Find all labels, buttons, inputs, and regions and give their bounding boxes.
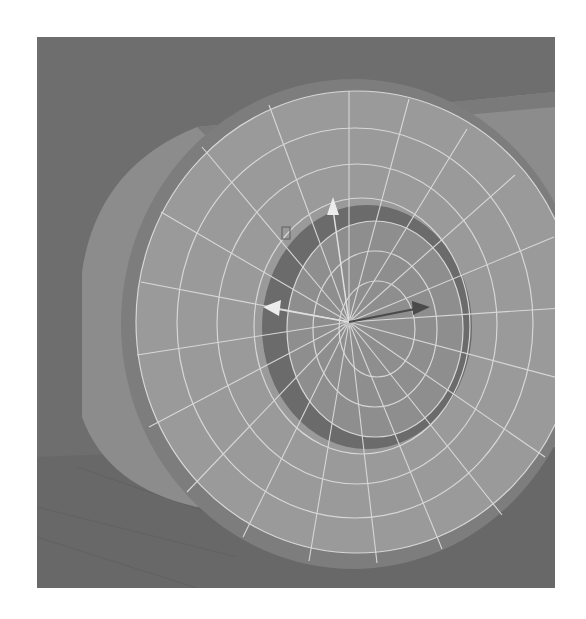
scene-canvas[interactable] [37, 37, 555, 588]
3d-viewport[interactable] [37, 37, 555, 588]
